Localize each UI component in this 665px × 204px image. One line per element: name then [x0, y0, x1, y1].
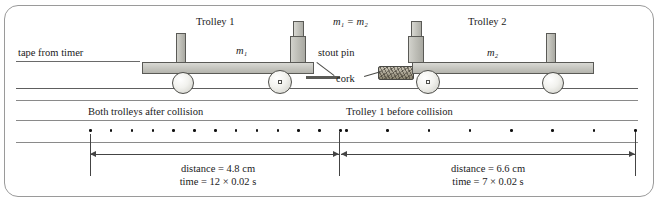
tape-dot [131, 129, 134, 132]
cork-label: cork [336, 74, 355, 85]
tape-dot [345, 129, 348, 132]
trolley-1-post-cap [293, 21, 304, 37]
tape-dot [551, 129, 554, 132]
tape-dot [89, 129, 92, 132]
tape-dot [214, 129, 217, 132]
tape-dot [318, 129, 321, 132]
tape-strip-top-rule [16, 100, 638, 101]
trolley-1-front-post [290, 36, 306, 63]
tape-strip-mid-rule [16, 120, 638, 121]
trolley-1-mass-label: m₁ [236, 46, 247, 57]
trolley-1-front-wheel-hub [278, 80, 282, 84]
measure-left-time: time = 12 × 0.02 s [128, 175, 308, 188]
measure-arrowhead-right-end [629, 151, 635, 157]
measure-left-readout: distance = 4.8 cm time = 12 × 0.02 s [128, 162, 308, 188]
tape-dot [256, 129, 259, 132]
trolley-2-mass-label: m₂ [487, 48, 498, 59]
trolley-collision-figure: tape from timer Trolley 1 m₁ stout pin m… [0, 0, 665, 204]
measure-arrow-line-right [341, 154, 635, 155]
measure-right-time: time = 7 × 0.02 s [398, 175, 578, 188]
trolley-1-label: Trolley 1 [196, 17, 234, 28]
tape-dot [510, 129, 513, 132]
trolley-2-label: Trolley 2 [468, 17, 506, 28]
tape-dot [297, 129, 300, 132]
trolley-1-rear-post [176, 33, 186, 63]
tape-dot [172, 129, 175, 132]
tape-dot [277, 129, 280, 132]
before-collision-caption: Trolley 1 before collision [346, 107, 453, 118]
tape-dot [428, 129, 431, 132]
trolley-2-front-post [546, 33, 556, 63]
after-collision-caption: Both trolleys after collision [88, 107, 203, 118]
measure-tick-middle [339, 132, 340, 176]
measure-right-distance: distance = 6.6 cm [398, 162, 578, 175]
stout-pin-label: stout pin [318, 48, 354, 59]
measure-left-distance: distance = 4.8 cm [128, 162, 308, 175]
cork [378, 66, 414, 80]
measure-arrowhead-left-end [333, 151, 339, 157]
measure-tick-right [635, 132, 636, 176]
measure-arrowhead-left-start [90, 151, 96, 157]
trolley-2-rear-post [408, 36, 424, 63]
tape-strip-bottom-rule [16, 142, 638, 143]
trolley-2-rear-wheel-hub [426, 80, 430, 84]
stout-pin [306, 76, 340, 79]
trolley-1-rear-wheel [172, 72, 194, 94]
tape-dot [593, 129, 596, 132]
measure-right-readout: distance = 6.6 cm time = 7 × 0.02 s [398, 162, 578, 188]
trolley-1-deck [142, 62, 314, 74]
trolley-2-front-wheel [542, 72, 564, 94]
trolley-2-deck [412, 62, 594, 74]
trolley-2-post-cap [411, 21, 422, 37]
mass-equality-label: m₁ = m₂ [333, 17, 368, 28]
tape-dot [193, 129, 196, 132]
tape-dot [386, 129, 389, 132]
tape-from-timer-label: tape from timer [18, 48, 83, 59]
measure-arrow-line-left [90, 154, 339, 155]
measure-arrowhead-right-start [341, 151, 347, 157]
tape-dot [152, 129, 155, 132]
tape-line [16, 61, 140, 62]
